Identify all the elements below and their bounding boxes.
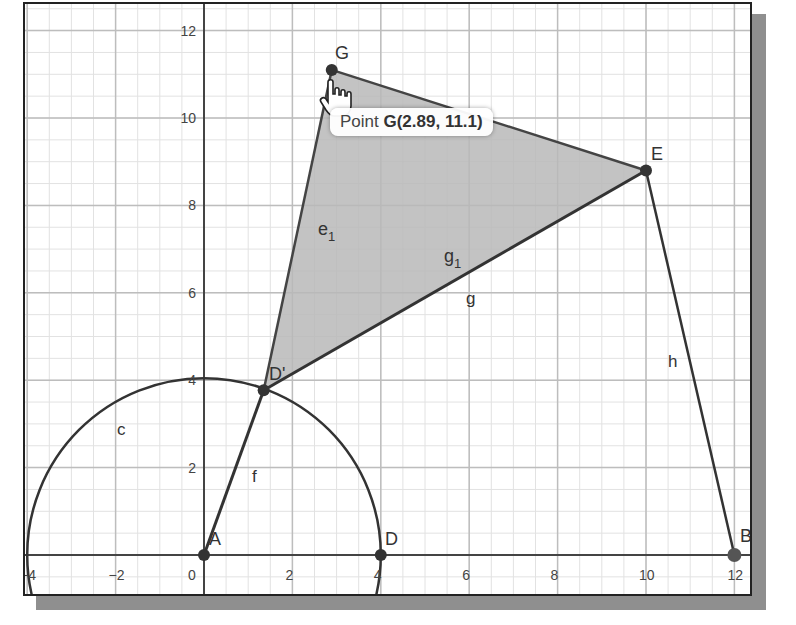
- x-tick-label: −4: [25, 567, 36, 583]
- y-tick-label: 4: [188, 372, 196, 388]
- graphics-view[interactable]: −4−202468101224681012 c f g h e1 g1 A B …: [23, 2, 752, 596]
- label-point-e: E: [651, 144, 663, 164]
- point-a[interactable]: [198, 549, 210, 561]
- point-g[interactable]: [326, 64, 338, 76]
- tooltip-value: G(2.89, 11.1): [383, 112, 482, 131]
- x-tick-label: 0: [188, 567, 196, 583]
- point-tooltip: Point G(2.89, 11.1): [330, 108, 493, 136]
- point-b[interactable]: [727, 548, 741, 562]
- graphics-canvas[interactable]: −4−202468101224681012 c f g h e1 g1 A B …: [25, 4, 752, 596]
- y-tick-label: 8: [188, 197, 196, 213]
- label-point-g: G: [335, 43, 349, 63]
- tooltip-prefix: Point: [340, 112, 383, 131]
- label-segment-f: f: [252, 467, 257, 486]
- x-tick-label: 2: [285, 567, 293, 583]
- y-tick-label: 12: [180, 23, 196, 39]
- label-point-d: D: [385, 529, 398, 549]
- x-tick-label: −2: [109, 567, 125, 583]
- x-tick-label: 6: [462, 567, 470, 583]
- label-point-b: B: [740, 526, 752, 546]
- y-tick-label: 6: [188, 285, 196, 301]
- y-tick-label: 10: [180, 110, 196, 126]
- x-tick-label: 8: [551, 567, 559, 583]
- x-tick-label: 4: [374, 567, 382, 583]
- label-segment-g: g: [466, 289, 475, 308]
- x-tick-label: 10: [639, 567, 655, 583]
- label-circle-c: c: [117, 420, 126, 439]
- point-d[interactable]: [375, 549, 387, 561]
- label-point-d-prime: D': [269, 364, 285, 384]
- x-tick-label: 12: [727, 567, 743, 583]
- y-tick-label: 2: [188, 460, 196, 476]
- point-e[interactable]: [640, 164, 652, 176]
- point-d-prime[interactable]: [258, 384, 270, 396]
- label-point-a: A: [209, 529, 221, 549]
- label-segment-h: h: [668, 352, 677, 371]
